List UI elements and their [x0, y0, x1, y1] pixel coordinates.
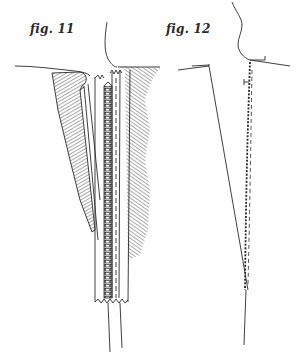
- seam-below-fig12: [244, 290, 246, 345]
- shoulder-line-right: [250, 60, 290, 66]
- figure-12-drawing: [178, 2, 290, 345]
- neck-outline: [105, 22, 117, 67]
- zipper-stitch-fig12: [245, 62, 250, 290]
- zipper-teeth: [104, 86, 112, 298]
- left-fabric-hatching: [52, 72, 95, 232]
- figure-11-drawing: [15, 22, 160, 352]
- right-fabric-hatching: [120, 66, 160, 260]
- seam-below-left: [108, 303, 110, 352]
- garment-edge-left: [209, 66, 248, 290]
- seam-below-right: [120, 303, 122, 348]
- neck-outline-fig12: [232, 2, 250, 60]
- illustration-canvas: [0, 0, 305, 362]
